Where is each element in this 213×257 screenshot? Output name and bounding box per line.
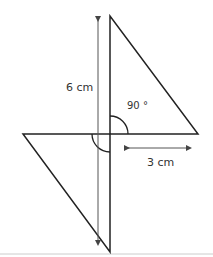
height-label: 6 cm <box>66 81 93 94</box>
right-angle-arc-lower <box>92 134 110 152</box>
lower-triangle <box>23 134 110 252</box>
angle-label: 90 ° <box>127 100 148 111</box>
upper-triangle <box>110 16 198 134</box>
right-angle-arc-upper <box>110 116 128 134</box>
diagram-canvas <box>0 0 213 257</box>
base-label: 3 cm <box>147 156 174 169</box>
triangle-rotation-diagram: 6 cm 90 ° 3 cm <box>0 0 213 257</box>
